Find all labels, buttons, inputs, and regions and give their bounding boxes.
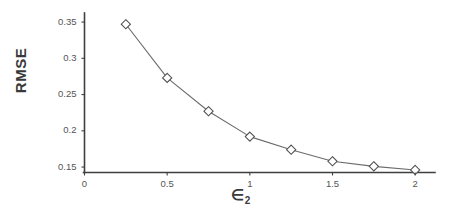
x-tick-label: 1 [235, 178, 265, 189]
x-tick-label: 0 [70, 178, 100, 189]
y-tick-label: 0.35 [37, 16, 77, 27]
chart-background [0, 0, 455, 214]
x-axis-title-base: ∈ [231, 186, 245, 203]
y-tick-label: 0.3 [37, 52, 77, 63]
chart-figure: RMSE ∈2 0.150.20.250.30.3500.511.52 [0, 0, 455, 214]
y-tick-label: 0.25 [37, 88, 77, 99]
y-tick-label: 0.2 [37, 124, 77, 135]
y-tick-label: 0.15 [37, 161, 77, 172]
y-axis-title: RMSE [12, 33, 29, 109]
x-axis-title: ∈2 [196, 186, 286, 206]
x-axis-title-subscript: 2 [245, 195, 251, 206]
rmse-line-chart [0, 0, 455, 214]
x-tick-label: 1.5 [317, 178, 347, 189]
x-tick-label: 0.5 [152, 178, 182, 189]
x-tick-label: 2 [400, 178, 430, 189]
